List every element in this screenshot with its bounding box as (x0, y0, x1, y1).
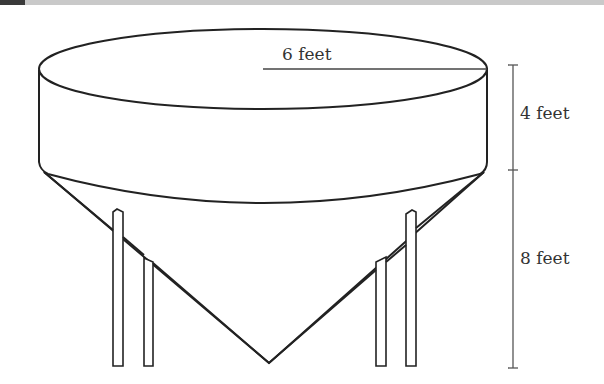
leg-right-outer (406, 210, 416, 366)
cylinder (39, 29, 487, 203)
dimension-line (508, 65, 518, 368)
leg-right-inner (376, 257, 386, 366)
cone-height-label: 8 feet (520, 250, 569, 267)
cylinder-height-label: 4 feet (520, 105, 569, 122)
radius-label: 6 feet (282, 46, 331, 63)
leg-left-inner (144, 258, 153, 366)
leg-left-outer (113, 209, 123, 366)
support-legs (113, 209, 416, 366)
